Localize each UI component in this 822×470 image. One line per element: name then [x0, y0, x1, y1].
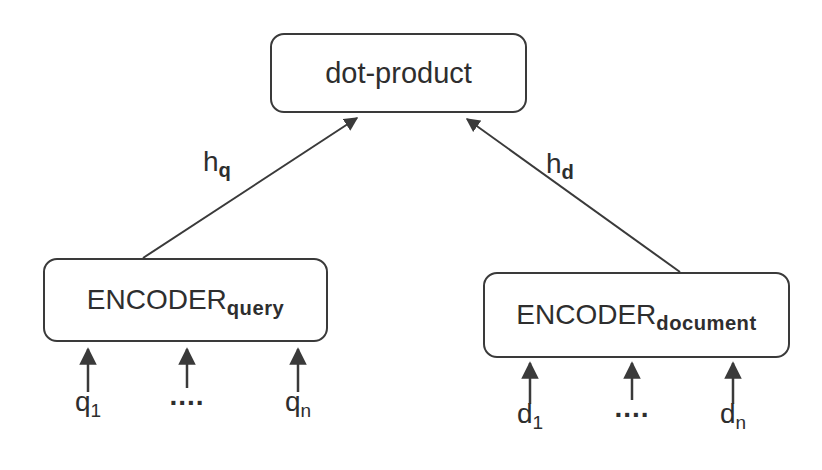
input-label-q-ellipsis: ....: [169, 380, 204, 412]
q1-subscript: 1: [90, 400, 101, 421]
dot-product-label: dot-product: [325, 57, 472, 90]
input-label-d1: d1: [517, 398, 543, 430]
dn-subscript: n: [735, 412, 746, 433]
hd-base: h: [546, 148, 562, 179]
hd-edge-label: hd: [546, 148, 574, 180]
input-label-q1: q1: [75, 386, 101, 418]
d-ellipsis-text: ....: [614, 392, 649, 423]
encoder-query-base: ENCODER: [87, 284, 227, 315]
d1-subscript: 1: [532, 412, 543, 433]
dot-product-node: dot-product: [270, 33, 527, 113]
input-label-dn: dn: [720, 398, 746, 430]
qn-base: q: [285, 386, 301, 417]
encoder-document-subscript: document: [656, 312, 756, 334]
d1-base: d: [517, 398, 533, 429]
hq-edge-label: hq: [203, 146, 231, 178]
q-ellipsis-text: ....: [169, 380, 204, 411]
encoder-document-label: ENCODERdocument: [516, 299, 756, 331]
encoder-document-node: ENCODERdocument: [483, 272, 790, 358]
hd-subscript: d: [562, 161, 575, 183]
hq-subscript: q: [219, 159, 232, 181]
encoder-query-label: ENCODERquery: [87, 284, 284, 316]
input-label-qn: qn: [285, 386, 311, 418]
q1-base: q: [75, 386, 91, 417]
hq-base: h: [203, 146, 219, 177]
encoder-query-node: ENCODERquery: [43, 258, 328, 342]
encoder-query-subscript: query: [227, 297, 284, 319]
input-label-d-ellipsis: ....: [614, 392, 649, 424]
encoder-document-base: ENCODER: [516, 299, 656, 330]
qn-subscript: n: [300, 400, 311, 421]
edge-hq-arrow: [143, 118, 357, 258]
edge-hd-arrow: [467, 119, 680, 272]
dual-encoder-diagram: dot-product ENCODERquery ENCODERdocument…: [0, 0, 822, 470]
dn-base: d: [720, 398, 736, 429]
